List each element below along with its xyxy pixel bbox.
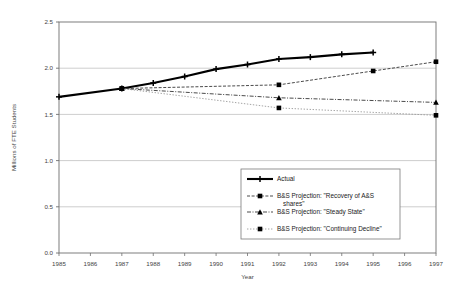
x-tick-label: 1992	[272, 260, 286, 267]
data-marker	[434, 113, 439, 118]
x-tick-label: 1995	[366, 260, 380, 267]
y-tick-label: 1.5	[44, 111, 53, 118]
y-tick-label: 1.0	[44, 157, 53, 164]
x-tick-label: 1989	[178, 260, 192, 267]
y-tick-label: 0.5	[44, 203, 53, 210]
chart-container: 0.00.51.01.52.02.51985198619871988198919…	[0, 0, 459, 303]
data-marker	[120, 86, 125, 91]
x-tick-label: 1985	[52, 260, 66, 267]
legend-item-label: B&S Projection: "Continuing Decline"	[277, 225, 382, 233]
series-line	[122, 89, 436, 116]
x-tick-label: 1997	[429, 260, 443, 267]
legend-item-label: B&S Projection: "Steady State"	[277, 208, 365, 216]
data-marker	[277, 83, 282, 88]
x-tick-label: 1990	[209, 260, 223, 267]
x-tick-label: 1988	[146, 260, 160, 267]
data-marker	[434, 59, 439, 64]
y-tick-label: 2.0	[44, 64, 53, 71]
x-tick-label: 1994	[335, 260, 349, 267]
x-tick-label: 1993	[303, 260, 317, 267]
data-marker	[258, 227, 263, 232]
x-tick-label: 1987	[115, 260, 129, 267]
fte-students-line-chart: 0.00.51.01.52.02.51985198619871988198919…	[0, 0, 459, 303]
x-tick-label: 1986	[84, 260, 98, 267]
data-marker	[277, 106, 282, 111]
series-1	[56, 49, 376, 99]
series-3	[119, 86, 439, 105]
y-tick-label: 0.0	[44, 249, 53, 256]
x-axis-title: Year	[241, 273, 254, 280]
legend: ActualB&S Projection: "Recovery of A&Ssh…	[241, 169, 400, 239]
series-2	[120, 59, 439, 90]
y-axis-title: Millions of FTE Students	[10, 104, 17, 171]
x-tick-label: 1996	[398, 260, 412, 267]
series-line	[59, 52, 373, 96]
x-tick-label: 1991	[241, 260, 255, 267]
data-marker	[258, 194, 263, 199]
legend-item-label: Actual	[277, 175, 295, 182]
legend-item-label-line2: shares"	[283, 200, 304, 207]
data-marker	[371, 69, 376, 74]
y-tick-label: 2.5	[44, 18, 53, 25]
